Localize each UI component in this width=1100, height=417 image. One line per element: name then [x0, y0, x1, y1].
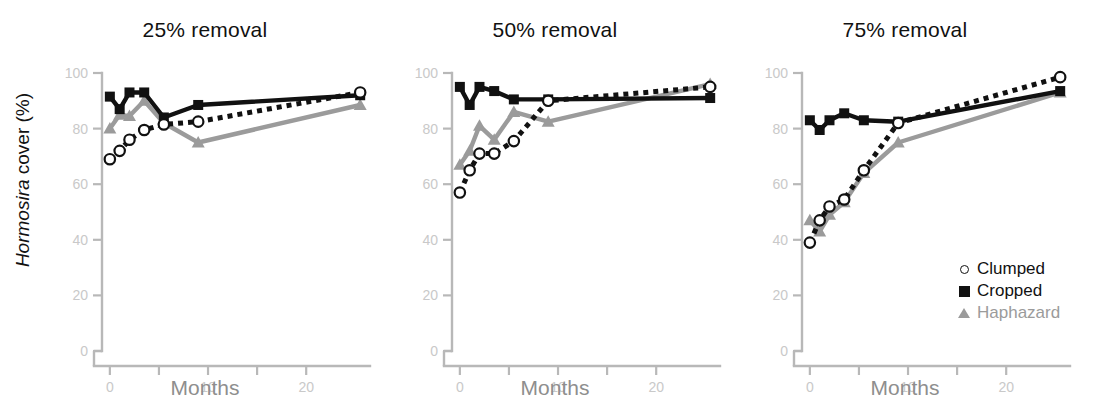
- data-point-cropped: [705, 93, 715, 103]
- y-tick-label: 0: [780, 343, 788, 359]
- data-point-cropped: [815, 125, 825, 135]
- y-tick-label: 20: [72, 287, 88, 303]
- legend-item-cropped: Cropped: [955, 280, 1060, 302]
- panel-75-removal: 75% removal 02040608010001020 Months: [730, 0, 1080, 417]
- y-tick-label: 100: [765, 65, 789, 81]
- data-point-cropped: [193, 100, 203, 110]
- data-point-clumped: [139, 125, 149, 135]
- plot-area: 02040608010001020: [730, 0, 1080, 417]
- y-tick-label: 60: [422, 176, 438, 192]
- open-circle-icon: [955, 265, 973, 274]
- y-tick-label: 60: [772, 176, 788, 192]
- data-point-clumped: [489, 148, 499, 158]
- data-point-cropped: [115, 104, 125, 114]
- data-point-clumped: [824, 201, 834, 211]
- filled-square-icon: [955, 286, 973, 297]
- y-tick-label: 20: [772, 287, 788, 303]
- data-point-clumped: [839, 194, 849, 204]
- y-tick-label: 40: [422, 232, 438, 248]
- filled-triangle-icon: [955, 308, 973, 318]
- data-point-cropped: [455, 82, 465, 92]
- plot-area: 02040608010001020: [30, 0, 380, 417]
- data-point-clumped: [509, 136, 519, 146]
- panel-50-removal: 50% removal 02040608010001020 Months: [380, 0, 730, 417]
- y-tick-label: 100: [65, 65, 89, 81]
- data-point-clumped: [705, 82, 715, 92]
- y-tick-label: 100: [415, 65, 439, 81]
- series-line-haphazard: [110, 101, 360, 143]
- data-point-cropped: [824, 115, 834, 125]
- data-point-cropped: [509, 94, 519, 104]
- y-tick-label: 0: [430, 343, 438, 359]
- data-point-clumped: [464, 165, 474, 175]
- y-tick-label: 80: [772, 121, 788, 137]
- legend-item-haphazard: Haphazard: [955, 302, 1060, 324]
- y-tick-label: 0: [80, 343, 88, 359]
- x-axis-title: Months: [730, 376, 1080, 400]
- data-point-cropped: [139, 87, 149, 97]
- data-point-clumped: [114, 146, 124, 156]
- data-point-clumped: [814, 215, 824, 225]
- data-point-clumped: [355, 87, 365, 97]
- data-point-clumped: [805, 237, 815, 247]
- data-point-cropped: [474, 82, 484, 92]
- y-tick-label: 20: [422, 287, 438, 303]
- y-tick-label: 80: [422, 121, 438, 137]
- x-axis-title: Months: [380, 376, 730, 400]
- panel-25-removal: 25% removal 02040608010001020 Months: [30, 0, 380, 417]
- data-point-cropped: [805, 115, 815, 125]
- data-point-cropped: [839, 108, 849, 118]
- data-point-clumped: [859, 165, 869, 175]
- legend-label: Haphazard: [977, 302, 1060, 324]
- data-point-clumped: [193, 116, 203, 126]
- data-point-clumped: [105, 154, 115, 164]
- legend-label: Clumped: [977, 258, 1045, 280]
- data-point-haphazard: [473, 119, 486, 131]
- plot-area: 02040608010001020: [380, 0, 730, 417]
- data-point-cropped: [489, 86, 499, 96]
- y-tick-label: 40: [772, 232, 788, 248]
- data-point-cropped: [465, 100, 475, 110]
- legend-label: Cropped: [977, 280, 1042, 302]
- x-axis-title: Months: [30, 376, 380, 400]
- data-point-clumped: [893, 118, 903, 128]
- figure-root: Hormosira cover (%) 25% removal 02040608…: [0, 0, 1100, 417]
- data-point-clumped: [1055, 72, 1065, 82]
- data-point-clumped: [455, 187, 465, 197]
- legend: Clumped Cropped Haphazard: [955, 258, 1060, 324]
- data-point-clumped: [474, 148, 484, 158]
- data-point-cropped: [124, 87, 134, 97]
- y-tick-label: 80: [72, 121, 88, 137]
- y-tick-label: 60: [72, 176, 88, 192]
- data-point-cropped: [859, 115, 869, 125]
- data-point-cropped: [1055, 86, 1065, 96]
- legend-item-clumped: Clumped: [955, 258, 1060, 280]
- data-point-clumped: [124, 135, 134, 145]
- data-point-cropped: [105, 92, 115, 102]
- data-point-clumped: [543, 96, 553, 106]
- data-point-clumped: [159, 119, 169, 129]
- y-tick-label: 40: [72, 232, 88, 248]
